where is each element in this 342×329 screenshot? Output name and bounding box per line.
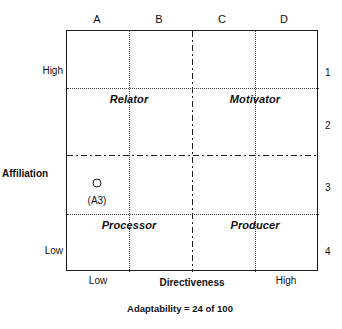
x-axis-high-label: High xyxy=(276,275,297,286)
column-header-b: B xyxy=(155,13,162,25)
y-axis-high-label: High xyxy=(42,65,63,76)
data-point-label: (A3) xyxy=(88,195,107,206)
gridline-horizontal-1 xyxy=(67,88,319,89)
x-axis-low-label: Low xyxy=(89,275,107,286)
row-number-3: 3 xyxy=(325,182,331,193)
gridline-horizontal-3 xyxy=(67,214,319,215)
row-number-1: 1 xyxy=(325,67,331,78)
plot-area: Relator Motivator Processor Producer (A3… xyxy=(66,30,318,271)
y-axis-title: Affiliation xyxy=(2,168,48,179)
gridline-vertical-b xyxy=(129,31,130,272)
row-number-2: 2 xyxy=(325,120,331,131)
y-axis-low-label: Low xyxy=(45,245,63,256)
behavioral-style-grid-chart: A B C D High Low Affiliation 1 2 3 4 Rel… xyxy=(0,0,342,329)
x-axis-title: Directiveness xyxy=(159,277,224,288)
quadrant-label-motivator: Motivator xyxy=(230,93,280,105)
column-header-a: A xyxy=(93,13,100,25)
gridline-vertical-d xyxy=(255,31,256,272)
column-header-c: C xyxy=(218,13,226,25)
quadrant-label-relator: Relator xyxy=(110,93,149,105)
gridline-horizontal-center xyxy=(67,155,319,156)
quadrant-label-processor: Processor xyxy=(102,219,157,231)
gridline-vertical-center xyxy=(192,31,193,272)
adaptability-caption: Adaptability = 24 of 100 xyxy=(127,303,233,314)
open-circle-marker xyxy=(93,179,102,188)
quadrant-label-producer: Producer xyxy=(230,219,279,231)
column-header-d: D xyxy=(280,13,288,25)
row-number-4: 4 xyxy=(325,246,331,257)
